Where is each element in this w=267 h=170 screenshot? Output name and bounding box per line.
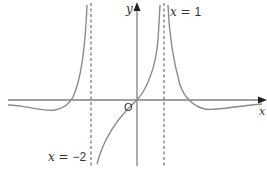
curve-middle-branch [97,5,160,164]
asymptote-eq: = [59,150,69,164]
x-axis-label: x [259,106,265,117]
curve-left-branch [8,5,87,110]
y-axis-label: y [126,3,133,15]
asymptote-val: 1 [195,5,202,19]
curve-right-branch [168,5,262,109]
asymptote-label-x-1: x = 1 [170,6,201,18]
function-graph [0,0,267,170]
x-axis-arrow-icon [258,97,267,104]
origin-label: O [124,102,133,113]
y-axis-arrow-icon [134,2,141,11]
asymptote-var: x [170,5,177,19]
asymptote-label-x-neg2: x = −2 [48,151,86,163]
asymptote-var: x [48,150,55,164]
asymptote-eq: = [181,5,191,19]
asymptote-val: −2 [73,150,87,164]
